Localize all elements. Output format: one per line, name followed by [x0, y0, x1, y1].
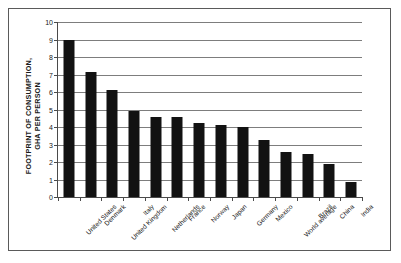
x-tick-mark [362, 197, 363, 201]
x-tick-mark [101, 197, 102, 201]
y-tick-label: 9 [49, 36, 53, 43]
bar [194, 123, 205, 197]
bar-group [188, 22, 210, 197]
bar-group [319, 22, 341, 197]
y-axis-title-line1: FOOTPRINT OF CONSUMPTION, [24, 57, 33, 173]
x-tick-label: France [187, 203, 206, 222]
x-axis-labels: United StatesDenmarkUnited KingdomItalyN… [58, 203, 362, 255]
x-tick-mark [340, 197, 341, 201]
y-axis-title-line2: GHA PER PERSON [33, 82, 42, 150]
x-tick-mark [123, 197, 124, 201]
y-tick-label: 7 [49, 71, 53, 78]
bar-group [275, 22, 297, 197]
bar [237, 127, 248, 197]
y-tick-label: 10 [45, 19, 53, 26]
bar [172, 117, 183, 198]
bar [324, 164, 335, 197]
figure: FOOTPRINT OF CONSUMPTION, GHA PER PERSON… [0, 0, 401, 263]
y-tick-label: 8 [49, 54, 53, 61]
bar-group [167, 22, 189, 197]
x-tick-mark [319, 197, 320, 201]
y-tick-label: 4 [49, 124, 53, 131]
y-axis-title: FOOTPRINT OF CONSUMPTION, GHA PER PERSON [18, 28, 48, 203]
x-tick-mark [253, 197, 254, 201]
y-tick-label: 0 [49, 194, 53, 201]
bar [150, 117, 161, 198]
bar-group [101, 22, 123, 197]
bar-group [297, 22, 319, 197]
bar [215, 125, 226, 197]
bar-group [80, 22, 102, 197]
bar [280, 152, 291, 198]
x-tick-mark [58, 197, 59, 201]
x-tick-mark [275, 197, 276, 201]
bar-series [58, 22, 362, 197]
x-tick-mark [145, 197, 146, 201]
bar-group [340, 22, 362, 197]
bar-group [253, 22, 275, 197]
bar [107, 90, 118, 197]
y-tick-label: 6 [49, 89, 53, 96]
x-tick-mark [80, 197, 81, 201]
plot-area: 012345678910 [58, 22, 362, 197]
bar [346, 182, 357, 197]
y-tick-label: 2 [49, 159, 53, 166]
y-tick-label: 1 [49, 176, 53, 183]
bar [302, 154, 313, 197]
bar-group [232, 22, 254, 197]
x-tick-mark [210, 197, 211, 201]
bar-group [123, 22, 145, 197]
y-tick-label: 5 [49, 106, 53, 113]
x-tick-mark [232, 197, 233, 201]
x-tick-mark [188, 197, 189, 201]
x-tick-label: Norway [210, 203, 231, 224]
bar-group [58, 22, 80, 197]
x-tick-mark [297, 197, 298, 201]
x-tick-mark [167, 197, 168, 201]
bar [128, 111, 139, 197]
x-tick-label: Japan [230, 203, 248, 221]
bar [259, 140, 270, 197]
bar [63, 40, 74, 198]
bar-group [210, 22, 232, 197]
bar-group [145, 22, 167, 197]
x-tick-label: China [338, 203, 355, 220]
bar [85, 72, 96, 197]
y-tick-label: 3 [49, 141, 53, 148]
